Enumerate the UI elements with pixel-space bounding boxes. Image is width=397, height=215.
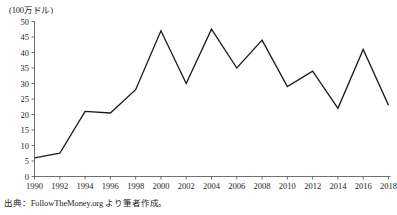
- x-tick-label: 1998: [127, 181, 144, 191]
- y-tick-label: 25: [21, 94, 30, 104]
- chart-figure: (100万ドル) 05101520253035404550 1990199219…: [0, 0, 397, 215]
- data-line: [35, 29, 389, 158]
- x-tick-label: 2012: [304, 181, 321, 191]
- x-tick-label: 1994: [77, 181, 95, 191]
- x-axis: 1990199219941996199820002002200420062008…: [26, 177, 397, 192]
- x-tick-label: 2002: [178, 181, 195, 191]
- y-tick-label: 5: [25, 156, 29, 166]
- y-tick-label: 40: [21, 48, 30, 58]
- y-tick-label: 20: [21, 110, 30, 120]
- x-tick-label: 2016: [355, 181, 372, 191]
- line-chart-plot: 05101520253035404550 1990199219941996199…: [0, 0, 397, 215]
- x-tick-label: 2008: [254, 181, 271, 191]
- x-tick-label: 2006: [228, 181, 245, 191]
- y-tick-label: 15: [21, 125, 30, 135]
- x-tick-label: 1990: [26, 181, 43, 191]
- y-tick-label: 10: [21, 141, 30, 151]
- y-tick-label: 50: [21, 17, 30, 27]
- data-series-group: [35, 29, 389, 158]
- x-tick-label: 1992: [51, 181, 68, 191]
- y-tick-label: 30: [21, 79, 30, 89]
- x-tick-label: 2000: [152, 181, 169, 191]
- x-tick-label: 2014: [329, 181, 347, 191]
- y-axis: 05101520253035404550: [21, 17, 35, 182]
- x-tick-label: 2018: [380, 181, 397, 191]
- x-tick-label: 1996: [102, 181, 119, 191]
- y-tick-label: 35: [21, 63, 30, 73]
- y-tick-label: 45: [21, 32, 30, 42]
- x-tick-label: 2004: [203, 181, 221, 191]
- source-note: 出典：FollowTheMoney.org より筆者作成。: [4, 196, 167, 208]
- x-tick-label: 2010: [279, 181, 296, 191]
